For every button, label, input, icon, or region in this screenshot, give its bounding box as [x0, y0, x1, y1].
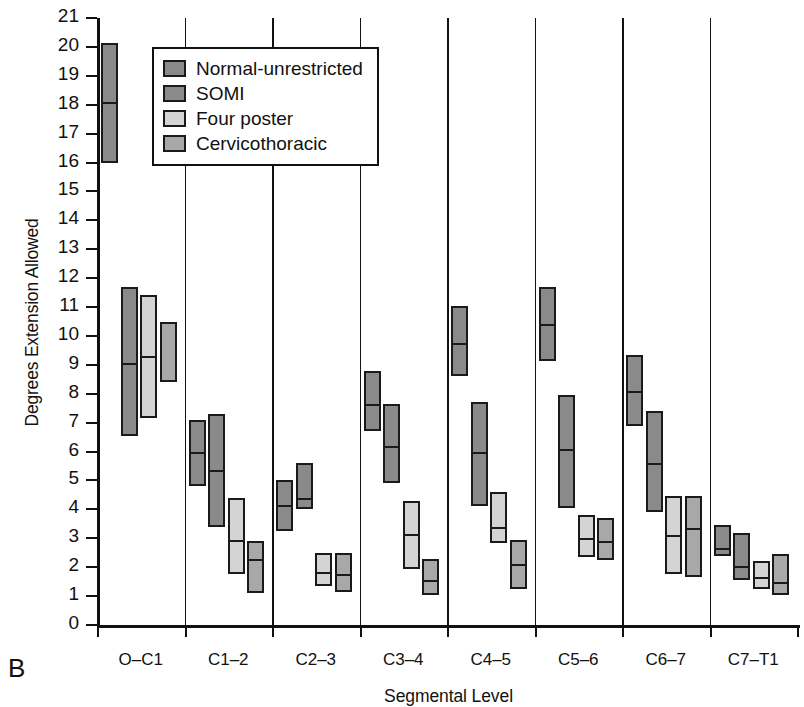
median-line — [735, 566, 748, 568]
y-axis-tick-label: 14 — [58, 208, 79, 228]
x-axis-category-label: C1–2 — [208, 650, 249, 670]
median-line — [774, 582, 787, 584]
median-line — [599, 541, 612, 543]
x-axis-tick — [535, 625, 537, 637]
y-axis-tick: 7 — [86, 422, 97, 424]
y-axis-tick: 19 — [86, 75, 97, 77]
median-line — [366, 404, 379, 406]
range-bar — [665, 496, 682, 574]
median-line — [103, 102, 116, 104]
median-line — [191, 452, 204, 454]
y-axis-tick-label: 16 — [58, 151, 79, 171]
x-axis-tick — [797, 625, 799, 637]
median-line — [473, 452, 486, 454]
range-bar — [471, 402, 488, 506]
y-axis-tick-label: 9 — [68, 353, 79, 373]
median-line — [123, 363, 136, 365]
median-line — [278, 505, 291, 507]
y-axis-tick-label: 1 — [68, 584, 79, 604]
legend-swatch — [163, 110, 186, 127]
median-line — [648, 463, 661, 465]
y-axis-tick: 3 — [86, 537, 97, 539]
median-line — [142, 356, 155, 358]
legend-swatch — [163, 135, 186, 152]
y-axis-tick: 8 — [86, 393, 97, 395]
median-line — [317, 572, 330, 574]
x-axis-category-label: C3–4 — [383, 650, 424, 670]
legend-label: Cervicothoracic — [196, 134, 327, 153]
range-bar — [228, 498, 245, 575]
median-line — [424, 580, 437, 582]
range-bar — [335, 553, 352, 592]
x-axis-tick — [272, 625, 274, 637]
range-bar — [714, 525, 731, 555]
y-axis-tick: 15 — [86, 190, 97, 192]
y-axis-tick: 1 — [86, 595, 97, 597]
y-axis-tick-label: 5 — [68, 468, 79, 488]
range-bar — [208, 414, 225, 527]
range-bar — [140, 295, 157, 418]
median-line — [512, 564, 525, 566]
range-bar — [101, 43, 118, 163]
x-axis-tick — [710, 625, 712, 637]
median-line — [667, 535, 680, 537]
y-axis-tick: 5 — [86, 479, 97, 481]
median-line — [628, 391, 641, 393]
y-axis-tick: 17 — [86, 133, 97, 135]
y-axis-tick-label: 3 — [68, 526, 79, 546]
range-bar — [247, 541, 264, 593]
legend-swatch — [163, 60, 186, 77]
y-axis-tick: 9 — [86, 364, 97, 366]
y-axis-tick-label: 13 — [58, 237, 79, 257]
legend-label: Normal-unrestricted — [196, 59, 363, 78]
y-axis-tick-label: 18 — [58, 93, 79, 113]
x-axis-category-label: C4–5 — [470, 650, 511, 670]
legend-label: Four poster — [196, 109, 293, 128]
y-axis-tick: 21 — [86, 17, 97, 19]
y-axis-tick: 0 — [86, 624, 97, 626]
median-line — [210, 470, 223, 472]
range-bar — [510, 540, 527, 589]
range-bar — [558, 395, 575, 508]
group-separator — [535, 18, 537, 625]
median-line — [230, 540, 243, 542]
range-bar — [364, 371, 381, 432]
y-axis-tick: 2 — [86, 566, 97, 568]
x-axis-tick — [622, 625, 624, 637]
range-bar — [276, 480, 293, 531]
x-axis-category-label: C6–7 — [645, 650, 686, 670]
y-axis-tick: 11 — [86, 306, 97, 308]
range-bar — [315, 553, 332, 586]
range-bar — [733, 533, 750, 581]
y-axis-tick-label: 8 — [68, 382, 79, 402]
y-axis-tick-label: 6 — [68, 440, 79, 460]
median-line — [453, 343, 466, 345]
range-bar — [685, 496, 702, 577]
legend-item: SOMI — [163, 81, 363, 106]
range-bar — [296, 463, 313, 509]
x-axis-tick — [97, 625, 99, 637]
median-line — [385, 446, 398, 448]
range-bar — [383, 404, 400, 483]
median-line — [492, 527, 505, 529]
x-axis-category-label: O–C1 — [119, 650, 163, 670]
median-line — [337, 574, 350, 576]
y-axis-tick-label: 21 — [58, 6, 79, 26]
legend-label: SOMI — [196, 84, 245, 103]
y-axis-line — [97, 18, 100, 628]
range-bar — [597, 518, 614, 560]
legend: Normal-unrestrictedSOMIFour posterCervic… — [152, 47, 379, 166]
range-bar — [646, 411, 663, 512]
y-axis-title: Degrees Extension Allowed — [22, 193, 43, 453]
x-axis-tick — [360, 625, 362, 637]
y-axis-tick-label: 0 — [68, 613, 79, 633]
median-line — [580, 538, 593, 540]
y-axis-tick-label: 12 — [58, 266, 79, 286]
median-line — [755, 577, 768, 579]
range-bar — [490, 492, 507, 543]
range-bar — [753, 561, 770, 588]
group-separator — [710, 18, 712, 625]
range-bar — [772, 554, 789, 594]
range-bar — [403, 501, 420, 569]
